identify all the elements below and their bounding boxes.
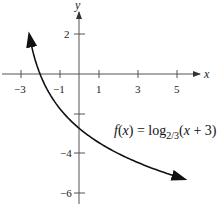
y-axis-label: y: [74, 0, 81, 12]
log-curve: [29, 35, 184, 179]
svg-text:−3: −3: [14, 83, 26, 95]
x-tick-labels: −3 −1 1 3 5: [14, 83, 180, 95]
svg-text:−6: −6: [60, 187, 72, 199]
function-label: f(x) = log2/3(x + 3): [114, 123, 217, 141]
svg-text:3: 3: [135, 83, 141, 95]
svg-text:1: 1: [96, 83, 102, 95]
y-tick-labels: 2 −4 −6: [60, 28, 72, 199]
svg-text:−1: −1: [53, 83, 65, 95]
log-base: 2/3: [166, 130, 179, 141]
svg-text:5: 5: [174, 83, 180, 95]
function-graph: x y −3 −1 1 3 5 2 −4 −6 f(x) = log2/3(: [0, 0, 220, 208]
svg-text:−4: −4: [60, 147, 72, 159]
x-axis-label: x: [203, 67, 210, 81]
svg-text:2: 2: [64, 28, 70, 40]
